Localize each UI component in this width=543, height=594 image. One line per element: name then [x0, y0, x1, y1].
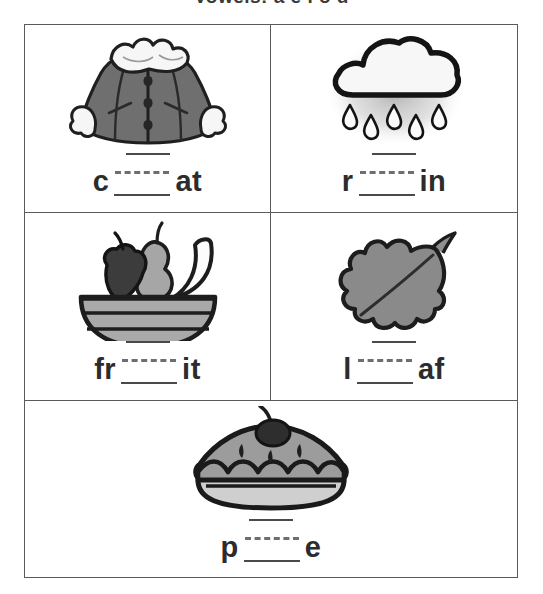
- word-line-block: p e: [25, 519, 517, 562]
- dashed-guide: [360, 171, 414, 174]
- rain-cloud-illustration: [271, 25, 517, 153]
- answer-blank[interactable]: [114, 166, 170, 196]
- answer-blank[interactable]: [359, 166, 415, 196]
- top-rule: [126, 341, 170, 343]
- writing-baseline: [357, 382, 413, 384]
- word-prefix: r: [342, 166, 354, 196]
- dashed-guide: [115, 171, 169, 174]
- dashed-guide: [245, 537, 299, 540]
- answer-blank[interactable]: [244, 532, 300, 562]
- word-prompt: p e: [221, 528, 322, 562]
- word-suffix: it: [182, 354, 201, 384]
- writing-baseline: [244, 560, 300, 562]
- writing-baseline: [114, 194, 170, 196]
- word-line-block: fr it: [25, 341, 270, 384]
- word-prompt: fr it: [94, 350, 201, 384]
- word-prompt: l af: [343, 350, 444, 384]
- pie-illustration: [25, 401, 517, 519]
- word-prefix: fr: [94, 354, 116, 384]
- worksheet-row: c at: [25, 25, 517, 213]
- answer-blank[interactable]: [357, 354, 413, 384]
- word-prompt: r in: [342, 162, 447, 196]
- word-prefix: l: [343, 354, 352, 384]
- page-title: Vowels: a e i o u: [0, 0, 543, 7]
- page-title-clip: Vowels: a e i o u: [0, 0, 543, 9]
- answer-blank[interactable]: [121, 354, 177, 384]
- worksheet-row: p e: [25, 401, 517, 575]
- word-prefix: p: [221, 532, 239, 562]
- top-rule: [372, 153, 416, 155]
- worksheet-cell-rain[interactable]: r in: [271, 25, 517, 212]
- word-prefix: c: [93, 166, 110, 196]
- leaf-illustration: [271, 213, 517, 341]
- worksheet-cell-leaf[interactable]: l af: [271, 213, 517, 400]
- word-line-block: l af: [271, 341, 517, 384]
- word-prompt: c at: [93, 162, 202, 196]
- coat-illustration: [25, 25, 270, 153]
- top-rule: [126, 153, 170, 155]
- word-suffix: in: [420, 166, 447, 196]
- word-suffix: at: [175, 166, 202, 196]
- worksheet-row: fr it: [25, 213, 517, 401]
- top-rule: [372, 341, 416, 343]
- fruit-bowl-illustration: [25, 213, 270, 341]
- worksheet-cell-coat[interactable]: c at: [25, 25, 271, 212]
- dashed-guide: [122, 359, 176, 362]
- writing-baseline: [121, 382, 177, 384]
- word-line-block: c at: [25, 153, 270, 196]
- word-suffix: e: [305, 532, 322, 562]
- worksheet-cell-pie[interactable]: p e: [25, 401, 517, 575]
- dashed-guide: [358, 359, 412, 362]
- worksheet-cell-fruit[interactable]: fr it: [25, 213, 271, 400]
- word-line-block: r in: [271, 153, 517, 196]
- worksheet-grid: c at: [24, 24, 518, 578]
- top-rule: [249, 519, 293, 521]
- word-suffix: af: [418, 354, 445, 384]
- writing-baseline: [359, 194, 415, 196]
